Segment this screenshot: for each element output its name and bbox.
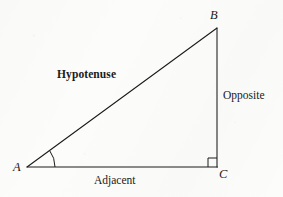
side-label-adjacent: Adjacent bbox=[94, 175, 136, 187]
side-label-hypotenuse: Hypotenuse bbox=[57, 69, 116, 81]
side-label-opposite: Opposite bbox=[223, 90, 265, 102]
right-angle-marker-at-c bbox=[208, 158, 217, 167]
hypotenuse-line bbox=[27, 28, 217, 167]
angle-arc-at-a bbox=[50, 151, 55, 168]
vertex-label-c: C bbox=[219, 168, 228, 181]
vertex-label-b: B bbox=[210, 9, 218, 22]
vertex-label-a: A bbox=[13, 161, 21, 174]
right-triangle-diagram: A B C Hypotenuse Opposite Adjacent bbox=[0, 0, 283, 197]
